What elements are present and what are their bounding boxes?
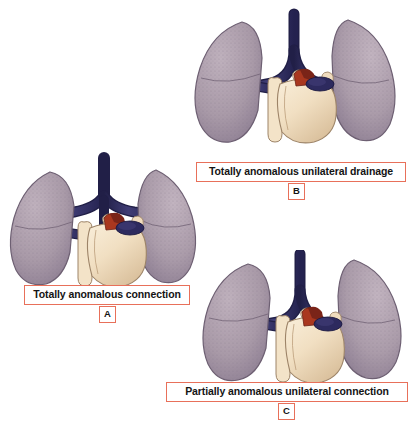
heart-b xyxy=(268,69,336,143)
panel-b-letter: B xyxy=(288,183,305,200)
left-lung-b xyxy=(195,22,262,142)
panel-c: Partially anomalous unilateral connectio… xyxy=(196,250,408,386)
panel-b-illustration xyxy=(182,6,406,156)
right-lung-a xyxy=(138,170,196,283)
panel-b-caption: Totally anomalous unilateral drainage xyxy=(196,162,406,182)
left-lung-a xyxy=(10,172,74,285)
right-lung-c xyxy=(338,260,401,379)
figure-root: Totally anomalous unilateral drainage B xyxy=(0,0,408,433)
panel-a-letter: A xyxy=(99,306,116,323)
panel-a: Totally anomalous connection A xyxy=(4,152,204,292)
heart-c xyxy=(276,307,344,383)
panel-c-caption: Partially anomalous unilateral connectio… xyxy=(166,382,408,402)
panel-c-illustration xyxy=(196,250,408,386)
right-lung-b xyxy=(332,20,395,141)
panel-b: Totally anomalous unilateral drainage B xyxy=(182,6,406,156)
panel-a-illustration xyxy=(4,152,204,292)
left-lung-c xyxy=(203,264,270,381)
panel-c-letter: C xyxy=(278,403,295,420)
heart-a xyxy=(78,213,146,287)
panel-a-caption: Totally anomalous connection xyxy=(24,285,190,305)
